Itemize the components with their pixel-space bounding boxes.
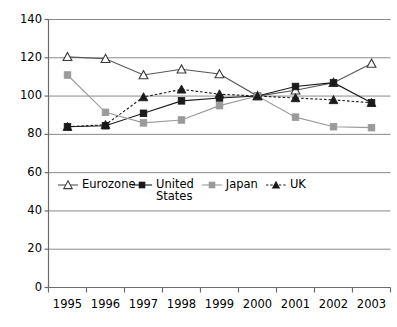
y-axis-tick-label: 100 (2, 88, 42, 102)
data-point-japan (330, 123, 337, 130)
legend-item-japan[interactable]: Japan (201, 178, 258, 192)
legend-item-label: UK (290, 178, 306, 191)
data-point-japan (102, 109, 109, 116)
chart-legend: EurozoneUnited StatesJapanUK (57, 178, 287, 206)
data-point-uk (177, 85, 186, 93)
data-point-japan (216, 102, 223, 109)
data-point-united-states (330, 79, 337, 86)
y-axis-tick-label: 120 (2, 50, 42, 64)
data-point-japan (64, 72, 71, 79)
y-axis-tick-label: 140 (2, 12, 42, 26)
data-point-united-states (292, 83, 299, 90)
data-point-united-states (178, 98, 185, 105)
legend-item-eurozone[interactable]: Eurozone (57, 178, 124, 192)
legend-marker-united-states-icon (131, 178, 153, 192)
data-point-united-states (140, 110, 147, 117)
y-axis-tick-label: 20 (2, 241, 42, 255)
legend-marker-eurozone-icon (57, 178, 79, 192)
chart-plot-area (0, 0, 397, 327)
line-chart: 0204060801001201401995199619971998199920… (0, 0, 397, 327)
y-axis-tick-label: 80 (2, 126, 42, 140)
data-point-japan (368, 124, 375, 131)
data-point-japan (292, 114, 299, 121)
data-point-japan (140, 120, 147, 127)
data-point-uk (215, 90, 224, 98)
x-axis-tick-label: 2003 (350, 297, 394, 311)
legend-item-label: Eurozone (82, 178, 124, 191)
y-axis-tick-label: 0 (2, 280, 42, 294)
y-axis-tick-label: 40 (2, 203, 42, 217)
y-axis-tick-label: 60 (2, 165, 42, 179)
data-point-eurozone (367, 59, 376, 67)
legend-marker-uk-icon (265, 178, 287, 192)
legend-item-uk[interactable]: UK (265, 178, 306, 192)
data-point-japan (178, 117, 185, 124)
legend-item-label: Japan (226, 178, 258, 191)
data-point-eurozone (177, 65, 186, 73)
legend-item-label: United States (156, 178, 194, 202)
legend-item-united-states[interactable]: United States (131, 178, 194, 202)
legend-marker-japan-icon (201, 178, 223, 192)
